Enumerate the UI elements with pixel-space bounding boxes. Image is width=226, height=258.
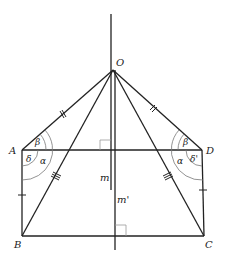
angle-arc-beta-A (40, 134, 46, 150)
label-A: A (8, 145, 16, 156)
angle-label-alpha-D: α (177, 156, 183, 166)
segment-OB (22, 70, 113, 236)
label-D: D (205, 145, 214, 156)
label-C: C (205, 239, 213, 250)
label-O: O (116, 57, 124, 68)
segment-DC (202, 150, 204, 236)
angle-label-delta-A: δ (26, 154, 31, 164)
angle-label-alpha-A: α (40, 156, 46, 166)
angle-label-beta-D: β (182, 137, 188, 147)
label-m-prime: m' (117, 194, 129, 205)
angle-label-delta-D: δ' (190, 154, 198, 164)
segment-OC (113, 70, 204, 236)
label-m: m (100, 172, 109, 183)
geometry-diagram: O A D B C m m' β α δ β α δ' (0, 0, 226, 258)
angle-label-beta-A: β (34, 137, 40, 147)
segment-OD (113, 70, 202, 150)
right-angle-mark-bottom (115, 225, 126, 236)
right-angle-mark-top (100, 140, 111, 150)
label-B: B (13, 239, 21, 250)
